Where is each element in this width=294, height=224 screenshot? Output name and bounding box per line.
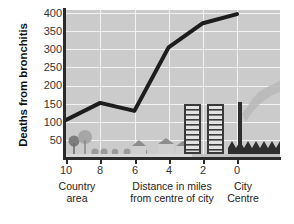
x-tick-2: 2	[190, 164, 216, 176]
country-area-caption-line1: Country	[46, 180, 108, 192]
country-area-caption: Country area	[46, 180, 108, 204]
city-centre-caption-line2: Centre	[214, 192, 272, 204]
bronchitis-deaths-polyline	[66, 14, 237, 120]
y-axis-line	[63, 8, 66, 160]
y-tick-250: 250	[32, 62, 62, 73]
y-tick-300: 300	[32, 44, 62, 55]
y-tick-150: 150	[32, 99, 62, 110]
y-tick-350: 350	[32, 26, 62, 37]
y-tick-200: 200	[32, 80, 62, 91]
y-tick-400: 400	[32, 8, 62, 19]
x-tick-6: 6	[122, 164, 148, 176]
x-axis-line	[63, 157, 281, 160]
city-centre-caption-line1: City	[214, 180, 272, 192]
x-tick-10: 10	[53, 164, 79, 176]
y-axis-title: Deaths from bronchitis	[17, 10, 29, 160]
x-tick-0: 0	[224, 164, 250, 176]
country-area-caption-line2: area	[46, 192, 108, 204]
y-tick-100: 100	[32, 117, 62, 128]
x-tick-8: 8	[87, 164, 113, 176]
y-tick-50: 50	[32, 135, 62, 146]
bronchitis-deaths-line-chart: Deaths from bronchitis 400 350 300 250 2…	[0, 0, 294, 224]
plot-area	[66, 10, 280, 158]
x-tick-4: 4	[156, 164, 182, 176]
city-centre-caption: City Centre	[214, 180, 272, 204]
data-series-line	[66, 10, 280, 158]
